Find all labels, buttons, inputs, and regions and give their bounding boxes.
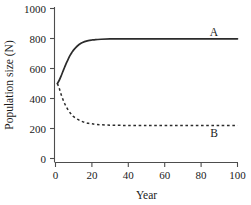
x-tick-label-0: 0: [53, 169, 59, 181]
y-tick-label-400: 400: [30, 93, 47, 105]
series-b-line: [57, 84, 237, 126]
y-tick-label-800: 800: [30, 33, 47, 45]
y-tick-label-0: 0: [41, 153, 47, 165]
y-axis-title: Population size (N): [3, 40, 16, 130]
x-axis-ticks: [56, 163, 238, 168]
x-tick-label-80: 80: [196, 169, 208, 181]
x-axis-title: Year: [136, 189, 157, 201]
x-tick-label-100: 100: [229, 169, 246, 181]
series-a-label: A: [210, 26, 219, 38]
x-tick-label-60: 60: [159, 169, 171, 181]
y-tick-label-1000: 1000: [24, 3, 47, 15]
x-tick-label-20: 20: [86, 169, 98, 181]
x-tick-label-40: 40: [123, 169, 135, 181]
population-dynamics-chart: 1000 800 600 400 200 0 0 20 40 60 80 100…: [0, 0, 251, 205]
series-b-label: B: [210, 127, 218, 139]
y-axis-ticks: [50, 9, 55, 159]
chart-canvas: 1000 800 600 400 200 0 0 20 40 60 80 100…: [0, 0, 251, 205]
y-tick-label-200: 200: [30, 123, 47, 135]
series-a-line: [57, 39, 237, 84]
y-tick-label-600: 600: [30, 63, 47, 75]
